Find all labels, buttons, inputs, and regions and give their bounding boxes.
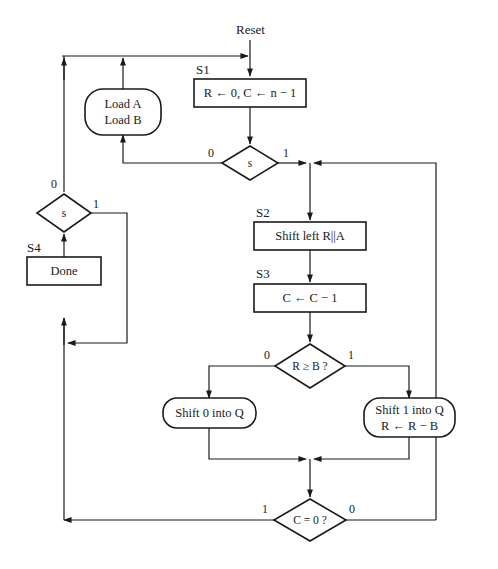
s2-action-text: Shift left R||A bbox=[275, 228, 345, 244]
decision-r-ge-b-text: R ≥ B ? bbox=[275, 344, 345, 388]
state-action-s1: R ← 0, C ← n − 1 bbox=[194, 79, 306, 107]
load-a-text: Load A bbox=[104, 96, 141, 112]
c-eq-0-condition: C = 0 ? bbox=[293, 512, 327, 528]
load-b-text: Load B bbox=[104, 112, 141, 128]
reset-label: Reset bbox=[236, 22, 265, 37]
c-loop-line bbox=[314, 163, 436, 520]
decision-s-left-text: s bbox=[37, 194, 91, 232]
s-top-condition: s bbox=[248, 155, 252, 171]
state-tag-s4: S4 bbox=[27, 240, 41, 255]
state-action-s3: C ← C − 1 bbox=[254, 284, 366, 312]
s-left-1-label: 1 bbox=[93, 197, 99, 212]
s4-action-text: Done bbox=[50, 263, 77, 279]
flowchart-canvas: Reset S1 S2 S3 S4 R ← 0, C ← n − 1 Shift… bbox=[0, 0, 498, 569]
s3-action-text: C ← C − 1 bbox=[283, 290, 338, 306]
rgeb-1-line bbox=[345, 366, 409, 398]
s-top-1-label: 1 bbox=[283, 146, 289, 161]
decision-s-top-text: s bbox=[222, 146, 278, 180]
shift1-merge-line bbox=[314, 437, 409, 459]
r-ge-b-condition: R ≥ B ? bbox=[292, 358, 327, 374]
decision-c-eq-0-text: C = 0 ? bbox=[274, 499, 346, 541]
shift0-text: Shift 0 into Q bbox=[175, 405, 243, 421]
state-action-s4: Done bbox=[27, 257, 101, 285]
c-eq-0-0-label: 0 bbox=[349, 502, 355, 517]
s1-action-text: R ← 0, C ← n − 1 bbox=[204, 85, 296, 101]
r-ge-b-0-label: 0 bbox=[264, 348, 270, 363]
r-ge-b-1-label: 1 bbox=[348, 348, 354, 363]
conditional-output-load: Load A Load B bbox=[85, 89, 161, 135]
s-left-0-label: 0 bbox=[51, 177, 57, 192]
rgeb-0-line bbox=[209, 366, 275, 398]
s-left-condition: s bbox=[62, 205, 66, 221]
r-minus-b-text: R ← R − B bbox=[381, 418, 438, 434]
state-tag-s3: S3 bbox=[256, 266, 270, 281]
state-action-s2: Shift left R||A bbox=[254, 222, 366, 250]
conditional-output-shift1: Shift 1 into Q R ← R − B bbox=[364, 398, 455, 437]
conditional-output-shift0: Shift 0 into Q bbox=[163, 398, 256, 428]
s-top-0-label: 0 bbox=[208, 146, 214, 161]
shift0-merge-line bbox=[209, 428, 306, 459]
state-tag-s2: S2 bbox=[256, 205, 270, 220]
c-eq-0-1-label: 1 bbox=[262, 502, 268, 517]
state-tag-s1: S1 bbox=[196, 62, 210, 77]
shift1-text: Shift 1 into Q bbox=[375, 402, 443, 418]
